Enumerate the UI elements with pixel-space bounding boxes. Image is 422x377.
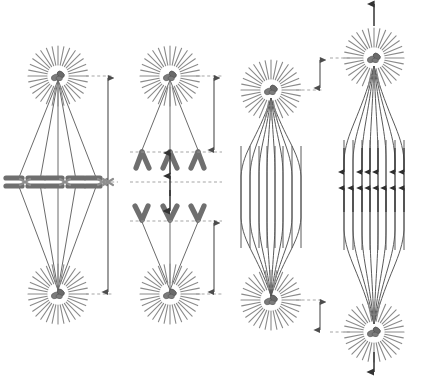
mitotic-spindle-figure: Metaphase: chromosomes aligned at equato… — [0, 0, 422, 377]
panel4-top-aster — [344, 28, 404, 88]
panel2-top-aster — [140, 46, 200, 106]
panel2-bottom-aster — [140, 264, 200, 324]
panel1-top-aster — [28, 46, 88, 106]
panel3-top-aster — [241, 60, 301, 120]
figure-canvas — [0, 0, 422, 377]
panel3-bottom-aster — [241, 270, 301, 330]
panel1-bottom-aster — [28, 264, 88, 324]
